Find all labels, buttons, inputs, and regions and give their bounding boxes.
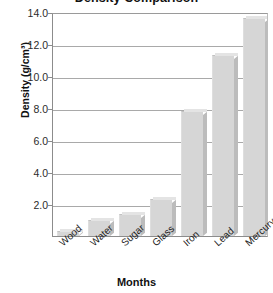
bar [212, 55, 234, 236]
bar-top-shade [184, 109, 207, 112]
plot-area [52, 13, 268, 237]
bar-top-shade [122, 212, 145, 215]
bars-layer [53, 14, 267, 236]
bar-side-shade [234, 56, 238, 236]
density-comparison-chart: Density Comparison Density (g/cm³) 14.01… [0, 0, 273, 293]
bar-top-shade [91, 218, 114, 221]
y-tick-label: 12.0 [4, 39, 48, 51]
y-tick-label: 8.0 [4, 103, 48, 115]
bar-top-shade [153, 197, 176, 200]
bar-side-shade [265, 19, 268, 236]
y-axis: 14.012.010.08.06.04.02.0 [0, 13, 48, 237]
bar-top-shade [246, 16, 268, 19]
y-tick-label: 14.0 [4, 7, 48, 19]
y-tick-label: 10.0 [4, 71, 48, 83]
y-tick-label: 6.0 [4, 135, 48, 147]
y-tick-label: 4.0 [4, 167, 48, 179]
chart-title: Density Comparison [0, 0, 273, 5]
bar [181, 111, 203, 236]
x-axis-title: Months [0, 276, 273, 288]
x-axis: WoodWaterSugarGlassIronLeadMercury [52, 238, 268, 276]
bar [243, 18, 265, 236]
bar-side-shade [203, 112, 207, 236]
y-tick-label: 2.0 [4, 199, 48, 211]
bar-top-shade [215, 53, 238, 56]
